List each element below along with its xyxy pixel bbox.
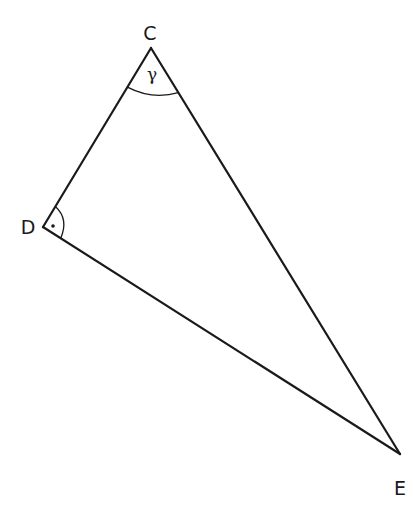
- angle-label-gamma: γ: [147, 64, 157, 84]
- vertex-label-c: C: [143, 22, 156, 44]
- right-angle-dot-d: [51, 224, 55, 228]
- triangle-diagram: γ C D E: [0, 0, 413, 524]
- side-ce: [151, 48, 400, 454]
- side-de: [43, 227, 400, 454]
- vertex-label-d: D: [21, 216, 36, 238]
- right-angle-arc-d: [55, 207, 63, 239]
- vertex-label-e: E: [394, 477, 406, 499]
- side-cd: [43, 48, 151, 227]
- angle-arc-c: [127, 87, 178, 95]
